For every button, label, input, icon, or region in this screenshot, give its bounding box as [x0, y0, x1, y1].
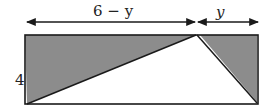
shaded-right-triangle	[200, 35, 257, 102]
label-height-4: 4	[15, 71, 25, 89]
label-6-minus-y: 6 − y	[93, 2, 134, 20]
geometry-diagram: 6 − y y 4	[0, 0, 269, 109]
label-y: y	[215, 3, 225, 21]
